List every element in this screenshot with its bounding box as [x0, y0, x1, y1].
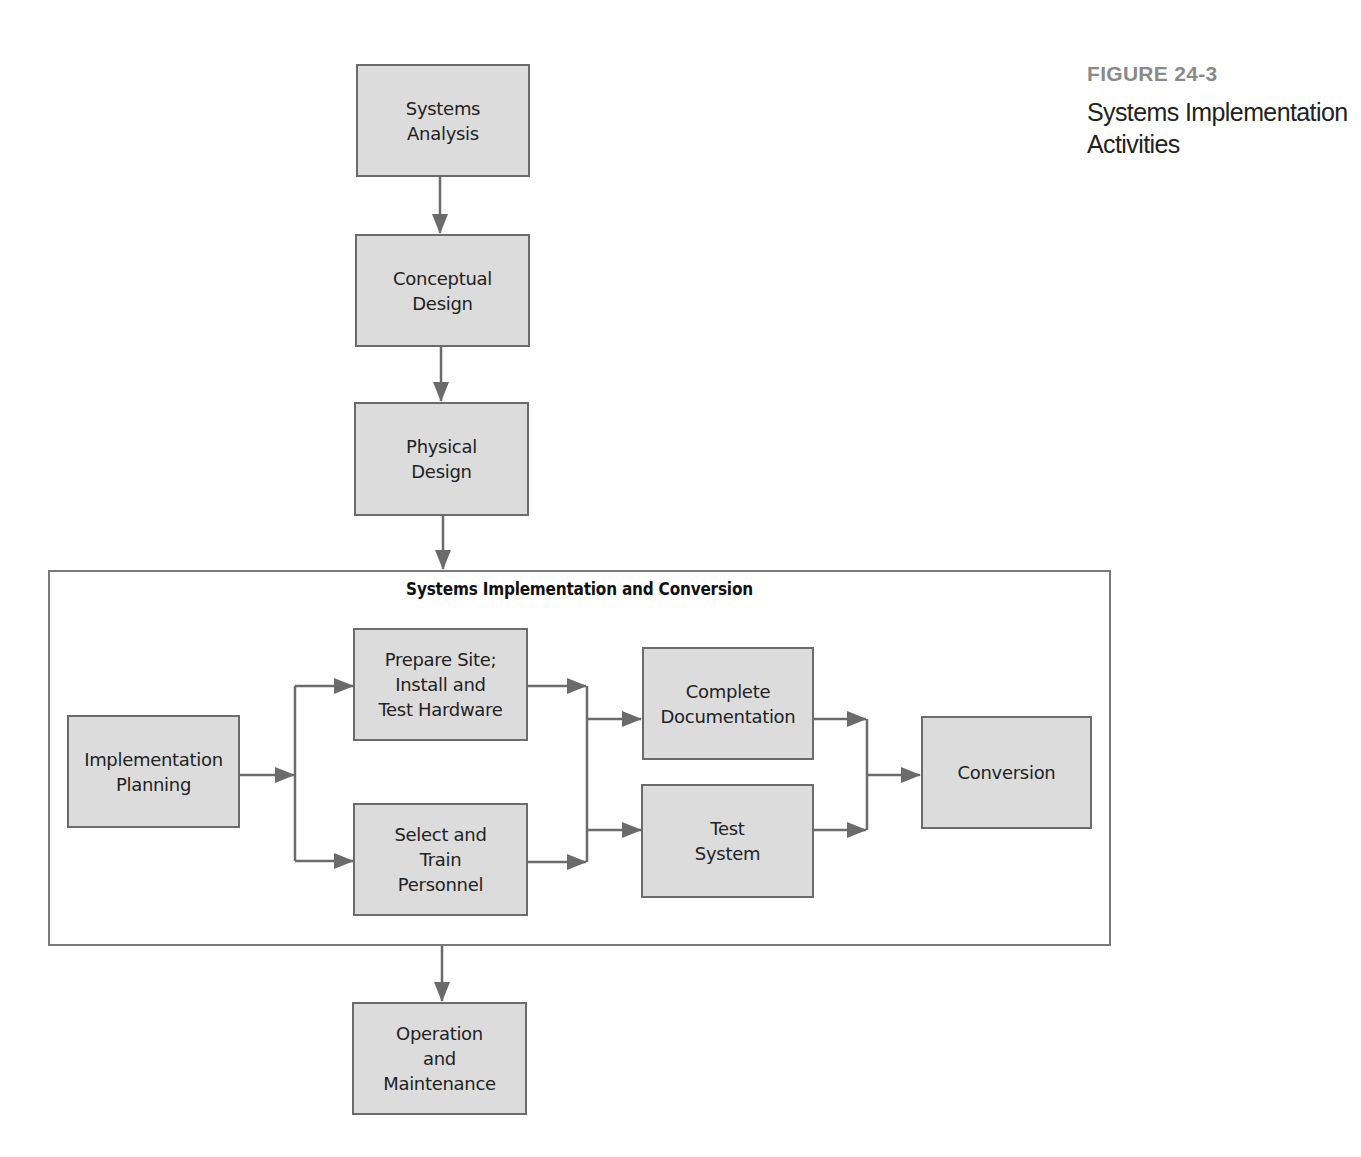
node-operation-maintenance: Operation and Maintenance [352, 1002, 527, 1115]
node-select-train-personnel: Select and Train Personnel [353, 803, 528, 916]
node-prepare-site: Prepare Site; Install and Test Hardware [353, 628, 528, 741]
node-systems-analysis: Systems Analysis [356, 64, 530, 177]
node-physical-design: Physical Design [354, 402, 529, 516]
node-conversion: Conversion [921, 716, 1092, 829]
node-conceptual-design: Conceptual Design [355, 234, 530, 347]
node-test-system: Test System [641, 784, 814, 898]
node-implementation-planning: Implementation Planning [67, 715, 240, 828]
implementation-group-title: Systems Implementation and Conversion [48, 579, 1111, 599]
node-complete-documentation: Complete Documentation [642, 647, 814, 760]
